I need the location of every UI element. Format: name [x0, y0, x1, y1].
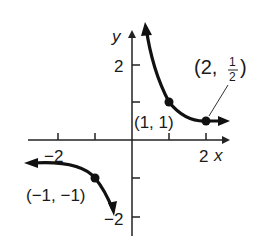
y-axis-label: y: [111, 27, 122, 46]
arrowhead-up-icon: [141, 22, 152, 36]
x-axis-arrow-icon: [222, 136, 230, 144]
y-axis-arrow-icon: [128, 30, 136, 38]
svg-text:1: 1: [229, 55, 236, 69]
svg-text:(2,: (2,: [194, 56, 217, 78]
x-tick-label-2: 2: [199, 147, 208, 166]
svg-text:2: 2: [229, 70, 236, 84]
point-2-half: [202, 117, 211, 126]
label-point-neg1-neg1: (−1, −1): [26, 186, 86, 205]
pointer-line-2-half: [209, 85, 228, 116]
label-point-1-1: (1, 1): [134, 113, 174, 132]
y-ticks: [132, 65, 140, 217]
label-point-2-half: (2, 1 2 ): [194, 55, 247, 84]
arrowhead-left-icon: [24, 158, 38, 168]
graph-reciprocal: y x 2 −2 −2 2 (1, 1) (−1, −1) (2, 1 2 ): [0, 0, 261, 238]
point-neg1-neg1: [91, 174, 100, 183]
x-axis-label: x: [213, 146, 223, 165]
arrowhead-right-icon: [218, 116, 230, 126]
point-1-1: [165, 98, 174, 107]
svg-text:): ): [240, 56, 247, 78]
y-tick-label-2: 2: [114, 57, 123, 76]
